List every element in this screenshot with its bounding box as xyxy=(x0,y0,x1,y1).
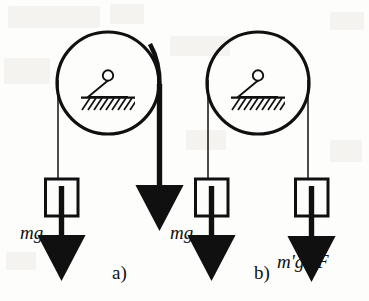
label-mg-b: mg xyxy=(170,222,193,243)
label-mg-a: mg xyxy=(20,222,43,243)
label-mprime-g-equals-F-b: m'g=F xyxy=(277,251,329,272)
label-F-a: F xyxy=(151,197,164,218)
pulley-mount-b xyxy=(231,70,288,110)
support-triangle-icon-b xyxy=(238,80,278,97)
physics-figure-pulley-diagram: mg F a) xyxy=(0,0,369,301)
panel-b: mg m'g=F b) xyxy=(170,32,329,284)
pivot-circle-icon-b xyxy=(253,70,263,80)
pulley-wheel-a xyxy=(57,32,159,134)
pivot-circle-icon-a xyxy=(103,70,113,80)
panel-caption-b: b) xyxy=(254,262,270,284)
panel-a: mg F a) xyxy=(20,32,164,284)
ground-hatching-a xyxy=(82,98,138,110)
pulley-wheel-b xyxy=(207,32,309,134)
support-triangle-icon-a xyxy=(88,80,128,97)
panel-caption-a: a) xyxy=(112,262,127,284)
figure-canvas: mg F a) xyxy=(0,0,369,301)
pulley-mount-a xyxy=(81,70,138,110)
ground-hatching-b xyxy=(232,98,288,110)
